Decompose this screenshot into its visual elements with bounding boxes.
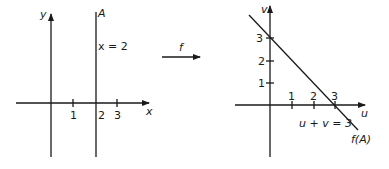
x-tick-label-1: 1 bbox=[70, 109, 77, 122]
right-plot: v u 1 2 3 1 2 3 u + v = 3 f(A) bbox=[235, 3, 371, 157]
x-tick-label-2: 2 bbox=[98, 109, 105, 122]
line-equation: u + v = 3 bbox=[299, 117, 352, 130]
v-axis-label: v bbox=[261, 3, 268, 16]
line-a-label: A bbox=[97, 7, 106, 20]
y-axis-label: y bbox=[39, 8, 47, 21]
mapping-diagram: y x 1 2 3 A x = 2 f v u 1 2 3 1 2 3 u + … bbox=[0, 0, 389, 169]
u-axis-label: u bbox=[361, 107, 368, 120]
mapping-arrow: f bbox=[162, 41, 200, 57]
u-tick-label-3: 3 bbox=[331, 90, 338, 103]
line-f-a-label: f(A) bbox=[351, 133, 371, 146]
v-tick-label-3: 3 bbox=[256, 32, 263, 45]
x-tick-label-3: 3 bbox=[114, 109, 121, 122]
left-plot: y x 1 2 3 A x = 2 bbox=[16, 7, 153, 157]
u-tick-label-1: 1 bbox=[288, 90, 295, 103]
v-tick-label-1: 1 bbox=[258, 77, 265, 90]
x-axis-label: x bbox=[145, 105, 153, 118]
v-tick-label-2: 2 bbox=[258, 55, 265, 68]
line-a-equation: x = 2 bbox=[98, 40, 128, 53]
u-tick-label-2: 2 bbox=[310, 90, 317, 103]
mapping-label: f bbox=[179, 41, 185, 54]
line-f-a bbox=[249, 15, 358, 130]
